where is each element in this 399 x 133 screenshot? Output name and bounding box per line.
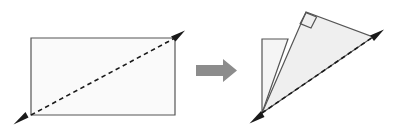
right-panel-group	[250, 12, 385, 124]
hypotenuse-arrowhead-end-icon	[370, 30, 384, 42]
transform-block-arrow-icon	[196, 59, 237, 82]
transform-arrow-group	[196, 59, 237, 82]
geometry-figure	[0, 0, 399, 133]
diagonal-arrowhead-start-icon	[14, 112, 29, 125]
figure-canvas	[0, 0, 399, 133]
left-panel-group	[14, 31, 186, 125]
